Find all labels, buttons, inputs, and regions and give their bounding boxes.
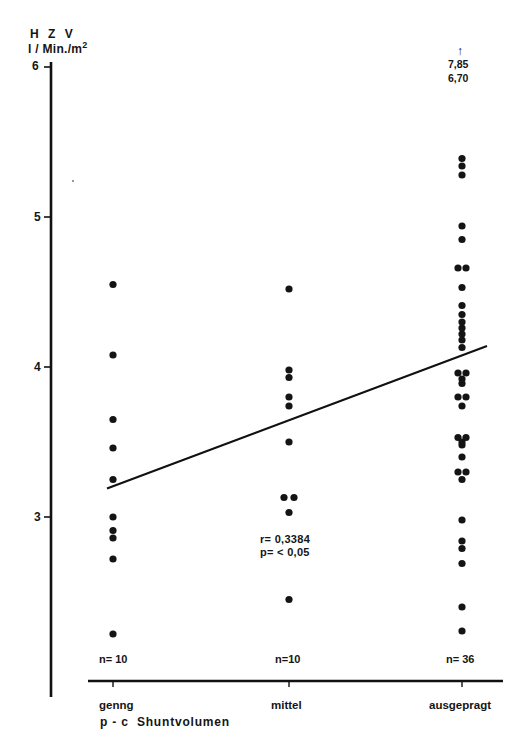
- print-speck: [72, 180, 74, 182]
- data-point-ausgepragt: [458, 344, 465, 351]
- correlation-r: r= 0,3384: [260, 534, 310, 545]
- offscale-value-1: 7,85: [448, 59, 468, 70]
- data-point-ausgepragt: [454, 369, 461, 376]
- data-point-genng: [109, 630, 116, 637]
- data-point-mittel: [285, 402, 292, 409]
- category-label-mittel: mittel: [271, 700, 302, 712]
- y-axis-unit-text: l / Min./m: [28, 42, 82, 56]
- data-point-mittel: [285, 438, 292, 445]
- data-point-genng: [109, 555, 116, 562]
- data-point-genng: [109, 534, 116, 541]
- data-point-mittel: [285, 285, 292, 292]
- data-point-ausgepragt: [458, 284, 465, 291]
- data-point-ausgepragt: [454, 393, 461, 400]
- data-point-ausgepragt: [458, 171, 465, 178]
- y-axis-title: H Z V: [30, 28, 76, 40]
- scatter-plot: [0, 0, 524, 753]
- data-point-genng: [109, 281, 116, 288]
- regression-line: [107, 346, 487, 489]
- data-point-ausgepragt: [458, 155, 465, 162]
- data-point-mittel: [290, 494, 297, 501]
- data-point-mittel: [285, 509, 292, 516]
- data-point-mittel: [285, 596, 292, 603]
- axes: [44, 62, 503, 697]
- p-value: p= < 0,05: [260, 547, 310, 558]
- data-point-genng: [109, 513, 116, 520]
- data-point-mittel: [280, 494, 287, 501]
- data-point-mittel: [285, 366, 292, 373]
- data-point-ausgepragt: [458, 537, 465, 544]
- data-point-ausgepragt: [458, 236, 465, 243]
- y-tick-label-3: 3: [34, 511, 41, 523]
- x-axis-title: p - c Shuntvolumen: [100, 716, 230, 728]
- data-point-ausgepragt: [458, 336, 465, 343]
- offscale-arrow-icon: ↑: [457, 45, 463, 57]
- y-tick-label-5: 5: [34, 211, 41, 223]
- data-point-ausgepragt: [458, 162, 465, 169]
- y-axis-unit: l / Min./m2: [28, 41, 88, 55]
- data-point-ausgepragt: [458, 603, 465, 610]
- category-label-genng: genng: [99, 700, 134, 712]
- y-tick-label-4: 4: [34, 361, 41, 373]
- data-point-ausgepragt: [458, 545, 465, 552]
- data-point-ausgepragt: [462, 369, 469, 376]
- data-point-ausgepragt: [458, 222, 465, 229]
- data-point-ausgepragt: [462, 264, 469, 271]
- data-point-mittel: [285, 374, 292, 381]
- data-point-mittel: [285, 393, 292, 400]
- data-point-genng: [109, 527, 116, 534]
- category-label-ausgepragt: ausgepragt: [429, 700, 491, 712]
- data-point-ausgepragt: [458, 311, 465, 318]
- data-point-ausgepragt: [458, 375, 465, 382]
- data-point-genng: [109, 476, 116, 483]
- y-axis-unit-exponent: 2: [82, 40, 87, 50]
- data-point-ausgepragt: [458, 560, 465, 567]
- data-point-ausgepragt: [462, 393, 469, 400]
- data-point-genng: [109, 444, 116, 451]
- data-point-ausgepragt: [454, 468, 461, 475]
- y-tick-label-6: 6: [32, 60, 39, 72]
- data-point-ausgepragt: [458, 627, 465, 634]
- data-point-ausgepragt: [458, 438, 465, 445]
- data-point-ausgepragt: [458, 318, 465, 325]
- data-point-ausgepragt: [458, 402, 465, 409]
- n-label-mittel: n=10: [275, 654, 300, 665]
- data-point-genng: [109, 351, 116, 358]
- data-point-ausgepragt: [458, 516, 465, 523]
- n-label-ausgepragt: n= 36: [446, 654, 474, 665]
- offscale-value-2: 6,70: [448, 73, 468, 84]
- data-point-genng: [109, 416, 116, 423]
- data-point-ausgepragt: [458, 302, 465, 309]
- data-point-ausgepragt: [458, 476, 465, 483]
- data-points: [109, 155, 469, 638]
- n-label-genng: n= 10: [99, 654, 127, 665]
- data-point-ausgepragt: [454, 264, 461, 271]
- data-point-ausgepragt: [458, 453, 465, 460]
- data-point-ausgepragt: [462, 468, 469, 475]
